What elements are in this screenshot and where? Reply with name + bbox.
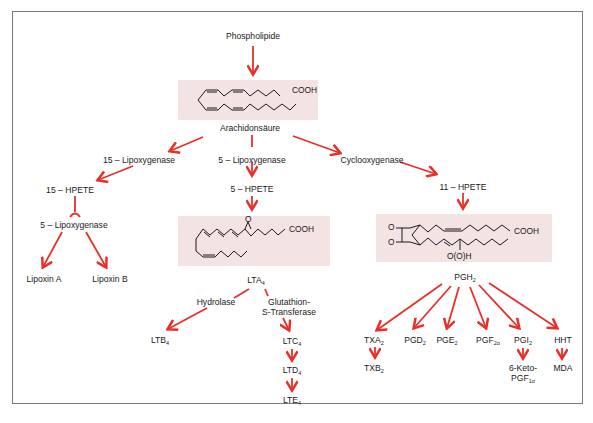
pgh2-upper-chain bbox=[420, 225, 510, 232]
lta4-group: COOH bbox=[289, 224, 314, 234]
label-mda: MDA bbox=[553, 364, 572, 373]
label-pgi2: PGI2 bbox=[514, 336, 532, 345]
label-pgh2: PGH2 bbox=[454, 273, 476, 282]
label-lipoxin-b: Lipoxin B bbox=[92, 275, 127, 284]
label-txa2: TXA2 bbox=[364, 336, 384, 345]
label-lte4: LTE4 bbox=[283, 396, 301, 405]
arachidonic-acid-chain bbox=[198, 90, 296, 110]
pgh2-ring bbox=[396, 225, 420, 245]
label-11-hpete: 11 – HPETE bbox=[439, 183, 486, 192]
label-15-hpete: 15 – HPETE bbox=[46, 186, 94, 195]
label-phospholipide: Phospholipide bbox=[226, 32, 280, 41]
label-5-lipoxygenase: 5 – Lipoxygenase bbox=[218, 156, 285, 165]
label-txb2: TXB2 bbox=[364, 364, 384, 373]
pgh2-lower-chain bbox=[420, 238, 508, 245]
label-pge2: PGE2 bbox=[436, 336, 457, 345]
label-pgd2: PGD2 bbox=[404, 336, 426, 345]
label-pgf2a: PGF2α bbox=[476, 336, 500, 345]
pgh2-hydroperoxy: O(O)H bbox=[447, 251, 472, 261]
label-pgf1a: PGF1α bbox=[511, 374, 535, 383]
label-5-lipoxygenase-b: 5 – Lipoxygenase bbox=[40, 221, 107, 230]
pgh2-peroxide-o-bottom: O bbox=[388, 237, 395, 247]
label-s-transferase: S-Transferase bbox=[262, 308, 316, 317]
arachidonic-acid-group: COOH bbox=[292, 85, 317, 95]
label-6-keto: 6-Keto- bbox=[509, 364, 537, 373]
label-ltd4: LTD4 bbox=[283, 366, 302, 375]
lta4-chain bbox=[196, 229, 285, 257]
pgh2-peroxide-o-top: O bbox=[388, 222, 395, 232]
label-15-lipoxygenase: 15 – Lipoxygenase bbox=[103, 156, 175, 165]
label-lta4: LTA4 bbox=[247, 276, 265, 285]
label-cyclooxygenase: Cyclooxygenase bbox=[340, 156, 403, 165]
label-hydrolase: Hydrolase bbox=[197, 298, 236, 307]
label-lipoxin-a: Lipoxin A bbox=[27, 275, 62, 284]
label-5-hpete: 5 – HPETE bbox=[231, 185, 274, 194]
structures-layer: COOH COOH O COOH O O O(O)H bbox=[0, 0, 593, 423]
label-ltb4: LTB4 bbox=[151, 336, 169, 345]
label-arachidonsaeure: Arachidonsäure bbox=[220, 124, 280, 133]
lta4-epoxide-o: O bbox=[245, 214, 252, 224]
pgh2-group: COOH bbox=[514, 226, 539, 236]
label-glutathion: Glutathion- bbox=[268, 298, 310, 307]
label-ltc4: LTC4 bbox=[283, 337, 302, 346]
label-hht: HHT bbox=[554, 336, 572, 345]
